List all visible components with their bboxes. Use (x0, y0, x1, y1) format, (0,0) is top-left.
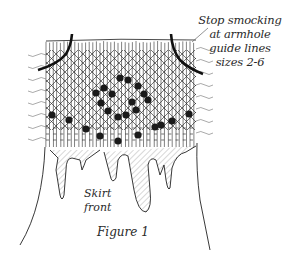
skirt-right-edge (197, 143, 210, 250)
annotation-line: guide lines (195, 41, 285, 55)
smocking-knot (157, 121, 164, 128)
lattice-line (0, 50, 6, 130)
smocking-knot (114, 113, 121, 120)
armhole-annotation: Stop smocking at armhole guide lines siz… (195, 13, 285, 69)
lattice-line (286, 50, 289, 130)
lattice-line (286, 50, 289, 130)
thread-tail (196, 96, 213, 99)
smocking-knot (134, 131, 141, 138)
smocking-knot (168, 117, 175, 124)
figure-caption: Figure 1 (97, 225, 149, 239)
smocking-knot (82, 125, 89, 132)
lattice-line (0, 50, 33, 130)
thread-tail (28, 54, 46, 57)
lattice-line (0, 50, 6, 130)
smocking-knot (128, 98, 135, 105)
thread-tail (28, 114, 46, 117)
smocking-knot (122, 111, 129, 118)
smocking-knot (108, 90, 115, 97)
smocking-knot (114, 137, 121, 144)
annotation-line: sizes 2-6 (195, 55, 285, 69)
pleat-top-edge (46, 39, 196, 41)
skirt-folds (50, 146, 196, 212)
smocking-knot (116, 74, 123, 81)
smocking-knot (48, 111, 55, 118)
thread-tail (28, 78, 46, 81)
thread-tail (28, 102, 46, 105)
lattice-line (0, 50, 24, 130)
lattice-line (0, 50, 33, 130)
skirt-label-line: Skirt (84, 187, 111, 201)
lattice-line (0, 50, 24, 130)
skirt-left-edge (20, 147, 45, 245)
thread-tail (196, 132, 213, 135)
thread-tail (28, 90, 46, 93)
smocking-knot (65, 116, 72, 123)
smocking-knot (97, 99, 104, 106)
smocking-knot (132, 106, 139, 113)
smocking-knot (124, 76, 131, 83)
lattice-line (0, 50, 15, 130)
skirt-label-line: front (84, 201, 111, 215)
lattice-line (0, 50, 15, 130)
smocking-knot (92, 89, 99, 96)
annotation-line: Stop smocking (195, 13, 285, 27)
lattice-line (0, 50, 42, 130)
thread-tail (196, 84, 213, 87)
lattice-line (0, 50, 42, 130)
smocking-knot (100, 84, 107, 91)
thread-tail (196, 120, 213, 123)
smocking-knot (185, 110, 192, 117)
smocking-knot (134, 82, 141, 89)
smocking-knot (140, 90, 147, 97)
thread-tail (196, 108, 213, 111)
annotation-line: at armhole (195, 27, 285, 41)
thread-tail (28, 138, 46, 141)
skirt-front-label: Skirt front (84, 187, 111, 215)
thread-tail (28, 126, 46, 129)
smocking-knot (144, 96, 151, 103)
smocking-knot (104, 107, 111, 114)
smocking-knot (96, 132, 103, 139)
